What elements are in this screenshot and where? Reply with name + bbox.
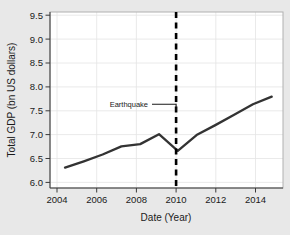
x-tick-label: 2004	[46, 194, 67, 205]
x-tick-label: 2014	[245, 194, 266, 205]
y-tick-label: 8.5	[30, 57, 43, 68]
gdp-line-chart: 9.5 9.0 8.5 8.0 7.5 7.0 6.5 6.0 2004 200…	[0, 0, 290, 235]
x-tick-label: 2012	[205, 194, 226, 205]
x-tick-label: 2006	[86, 194, 107, 205]
y-tick-label: 9.0	[30, 34, 43, 45]
y-tick-label: 6.5	[30, 153, 43, 164]
y-tick-label: 7.0	[30, 129, 43, 140]
y-tick-label: 7.5	[30, 105, 43, 116]
x-tick-label: 2008	[126, 194, 147, 205]
x-axis-title: Date (Year)	[141, 212, 192, 223]
y-tick-label: 6.0	[30, 177, 43, 188]
x-tick-label: 2010	[166, 194, 187, 205]
y-tick-label: 9.5	[30, 10, 43, 21]
earthquake-annotation-label: Earthquake	[110, 100, 148, 109]
y-axis-title: Total GDP (bn US dollars)	[6, 43, 17, 158]
y-tick-label: 8.0	[30, 81, 43, 92]
chart-figure: 9.5 9.0 8.5 8.0 7.5 7.0 6.5 6.0 2004 200…	[0, 0, 290, 235]
